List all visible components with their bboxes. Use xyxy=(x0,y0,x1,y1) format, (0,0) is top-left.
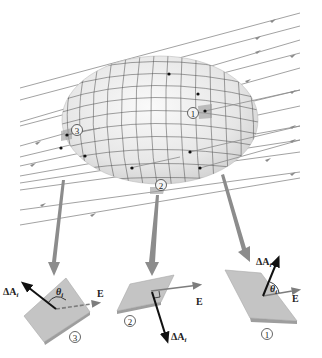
inset-3-number: 3 xyxy=(73,333,78,343)
inset-2-number: 2 xyxy=(128,317,133,327)
surface-marker-2: 2 xyxy=(156,180,167,191)
inset-2-field-label: E xyxy=(196,296,203,307)
inset-1-number: 1 xyxy=(265,330,270,340)
pointer-arrow-3 xyxy=(48,180,65,276)
gauss-surface-diagram: 1 3 2 ΔAi θi E 3 E ΔAi 2 xyxy=(0,0,322,358)
inset-3-area-label: ΔAi xyxy=(3,286,19,299)
closed-surface xyxy=(61,55,258,194)
inset-1-area-label: ΔAi xyxy=(256,256,272,269)
inset-2: E ΔAi 2 xyxy=(117,275,203,344)
inset-2-area-label: ΔAi xyxy=(171,331,187,344)
inset-1-field-label: E xyxy=(292,293,299,304)
pointer-arrow-2 xyxy=(145,195,159,276)
svg-text:1: 1 xyxy=(191,109,196,119)
inset-1: ΔAi θi E 1 xyxy=(225,256,299,340)
surface-marker-3: 3 xyxy=(72,125,83,136)
inset-3: ΔAi θi E 3 xyxy=(3,278,104,345)
surface-marker-1: 1 xyxy=(188,108,199,119)
svg-text:2: 2 xyxy=(159,181,164,191)
inset-1-patch xyxy=(225,270,297,321)
pointer-arrows xyxy=(48,174,250,276)
inset-3-field-label: E xyxy=(97,288,104,299)
svg-text:3: 3 xyxy=(75,126,80,136)
